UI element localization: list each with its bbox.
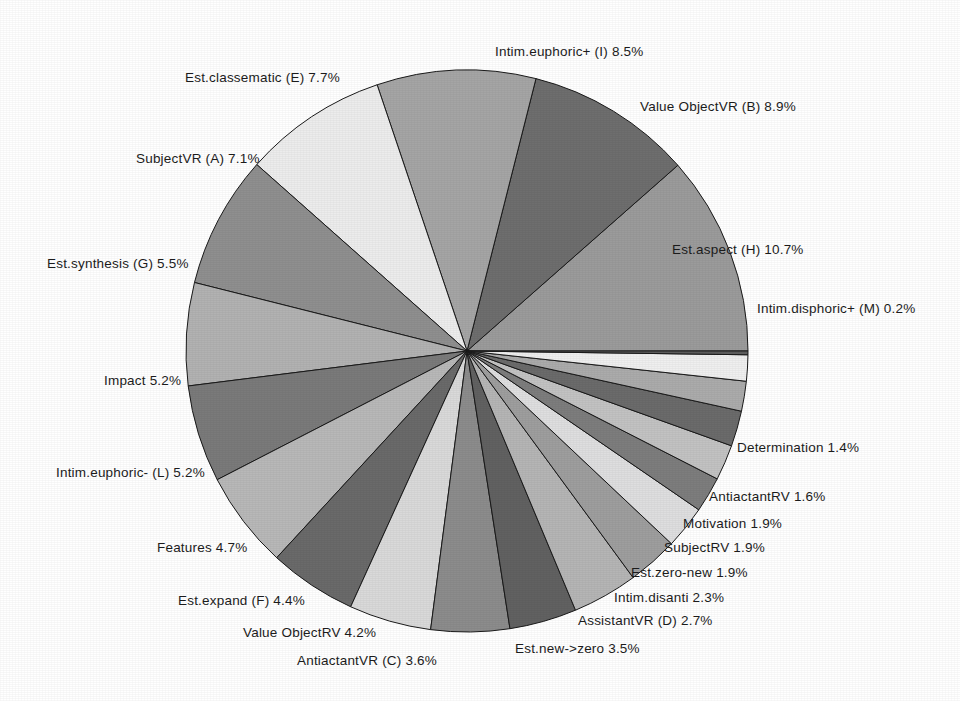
pie-slice-label: Intim.disanti 2.3%: [614, 590, 724, 605]
pie-slice-label: Intim.euphoric- (L) 5.2%: [56, 465, 205, 480]
pie-slice-label: Value ObjectVR (B) 8.9%: [640, 99, 796, 114]
pie-chart-figure: Est.aspect (H) 10.7%Value ObjectVR (B) 8…: [0, 0, 960, 701]
pie-slice-label: Intim.euphoric+ (I) 8.5%: [495, 44, 644, 59]
pie-slice-label: Est.zero-new 1.9%: [631, 565, 748, 580]
pie-slice-label: Determination 1.4%: [737, 440, 859, 455]
pie-slice-label: AntiactantRV 1.6%: [709, 489, 825, 504]
pie-chart-svg: Est.aspect (H) 10.7%Value ObjectVR (B) 8…: [0, 0, 960, 701]
pie-slice-label: Motivation 1.9%: [683, 516, 782, 531]
pie-slice-label: Value ObjectRV 4.2%: [243, 625, 376, 640]
pie-slice-label: Est.expand (F) 4.4%: [178, 593, 305, 608]
pie-slice-label: AntiactantVR (C) 3.6%: [297, 653, 437, 668]
pie-slice-label: Intim.disphoric+ (M) 0.2%: [757, 301, 915, 316]
pie-slice-label: Est.aspect (H) 10.7%: [672, 242, 804, 257]
pie-slice-label: Features 4.7%: [157, 540, 247, 555]
pie-slice-label: Impact 5.2%: [104, 373, 181, 388]
pie-slice-label: AssistantVR (D) 2.7%: [578, 613, 713, 628]
pie-slice-label: SubjectVR (A) 7.1%: [136, 151, 260, 166]
pie-slice-label: Est.classematic (E) 7.7%: [185, 70, 340, 85]
pie-slice-label: Est.new->zero 3.5%: [515, 641, 640, 656]
pie-slice-label: SubjectRV 1.9%: [664, 540, 765, 555]
pie-slice-label: Est.synthesis (G) 5.5%: [47, 256, 189, 271]
